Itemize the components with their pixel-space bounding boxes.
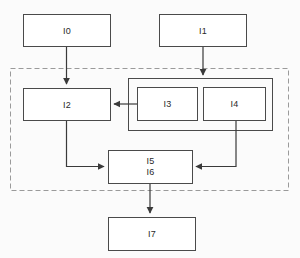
node-i5-label: I5 [147, 156, 155, 166]
node-i2-label: I2 [63, 100, 71, 110]
node-i1[interactable]: I1 [160, 15, 247, 47]
node-i5-i6[interactable]: I5 I6 [109, 151, 193, 184]
node-i6-label: I6 [147, 167, 155, 177]
node-i2[interactable]: I2 [24, 89, 111, 121]
node-i3[interactable]: I3 [138, 88, 198, 121]
node-i0-label: I0 [63, 26, 71, 36]
node-i4-label: I4 [231, 99, 239, 109]
node-i4[interactable]: I4 [204, 88, 266, 121]
edge-i4-to-i5i6 [196, 120, 236, 167]
edge-i2-to-i5i6 [67, 120, 105, 167]
node-i1-label: I1 [199, 26, 207, 36]
node-i7-label: I7 [148, 229, 156, 239]
node-i3-label: I3 [164, 99, 172, 109]
diagram-canvas: I0 I1 I2 I3 I4 I5 I6 I7 [0, 0, 300, 258]
node-i7[interactable]: I7 [109, 218, 196, 251]
diagram-svg: I0 I1 I2 I3 I4 I5 I6 I7 [0, 0, 300, 258]
node-i0[interactable]: I0 [24, 15, 111, 47]
